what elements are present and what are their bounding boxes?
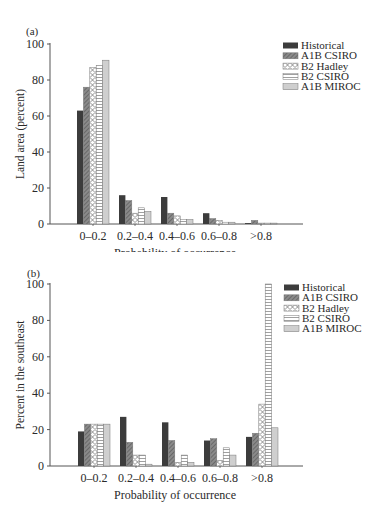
y-tick-label: 80 (32, 73, 44, 87)
bar (162, 422, 168, 466)
bar (104, 424, 110, 466)
y-tick-label: 20 (32, 423, 44, 437)
bar (251, 220, 257, 224)
y-tick-label: 0 (38, 217, 44, 231)
chart-panel-a: (a)020406080100Land area (percent)0–0.20… (0, 0, 372, 252)
bar (139, 455, 145, 466)
bar (216, 220, 222, 224)
bar (138, 208, 144, 224)
bar (119, 195, 125, 224)
x-tick-label: >0.8 (251, 471, 273, 485)
x-tick-label: >0.8 (250, 229, 272, 243)
bar (265, 284, 271, 466)
y-tick-label: 60 (32, 350, 44, 364)
bar (223, 448, 229, 466)
bar (90, 67, 96, 224)
y-tick-label: 60 (32, 109, 44, 123)
bar (246, 437, 252, 466)
bar (181, 455, 187, 466)
legend-swatch (283, 63, 298, 69)
bar (133, 455, 139, 466)
legend-swatch (284, 315, 299, 321)
bar (96, 66, 102, 224)
bar (252, 433, 258, 466)
bar (229, 222, 235, 224)
legend: HistoricalA1B CSIROB2 HadleyB2 CSIROA1B … (283, 39, 361, 92)
bars (77, 60, 277, 224)
bar (258, 223, 264, 224)
legend-label: A1B MIROC (301, 80, 361, 92)
x-tick-label: 0.6–0.8 (202, 471, 238, 485)
legend-swatch (283, 53, 298, 59)
bar (264, 223, 270, 224)
x-tick-label: 0–0.2 (81, 471, 108, 485)
y-axis-label: Percent in the southeast (14, 320, 26, 430)
bar (91, 424, 97, 466)
bar (222, 222, 228, 224)
bar (209, 219, 215, 224)
bar (180, 220, 186, 225)
legend: HistoricalA1B CSIROB2 HadleyB2 CSIROA1B … (284, 281, 362, 334)
bar (174, 216, 180, 224)
bar (132, 213, 138, 224)
bar (125, 201, 131, 224)
bar (272, 428, 278, 466)
bar (77, 111, 83, 224)
bar (78, 431, 84, 466)
legend-swatch (284, 326, 299, 332)
y-tick-label: 40 (32, 145, 44, 159)
legend-swatch (283, 43, 298, 49)
legend-swatch (284, 295, 299, 301)
chart-svg: (b)020406080100Percent in the southeast0… (0, 252, 372, 515)
x-tick-label: 0.6–0.8 (201, 229, 237, 243)
bar (83, 87, 89, 224)
bar (120, 417, 126, 466)
legend-swatch (284, 305, 299, 311)
x-tick-label: 0.4–0.6 (159, 229, 195, 243)
bar (145, 211, 151, 224)
bar (175, 462, 181, 466)
legend-label: A1B MIROC (302, 322, 362, 334)
x-tick-label: 0.2–0.4 (117, 229, 153, 243)
bar (245, 223, 251, 224)
bar (167, 213, 173, 224)
x-tick-label: 0.4–0.6 (160, 471, 196, 485)
chart-svg: (a)020406080100Land area (percent)0–0.20… (0, 0, 372, 252)
bar (126, 442, 132, 466)
bar (84, 424, 90, 466)
bar (204, 441, 210, 466)
bar (97, 424, 103, 466)
bar (259, 404, 265, 466)
bar (168, 441, 174, 466)
bar (203, 213, 209, 224)
legend-swatch (283, 73, 298, 79)
bars (78, 284, 278, 466)
bar (188, 462, 194, 466)
y-tick-label: 100 (26, 37, 44, 51)
y-tick-label: 80 (32, 313, 44, 327)
y-tick-label: 0 (38, 459, 44, 473)
legend-swatch (283, 84, 298, 90)
x-tick-label: 0–0.2 (80, 229, 107, 243)
y-tick-label: 40 (32, 386, 44, 400)
bar (230, 455, 236, 466)
bar (103, 60, 109, 224)
legend-swatch (284, 285, 299, 291)
y-tick-label: 100 (26, 277, 44, 291)
bar (210, 439, 216, 466)
bar (271, 223, 277, 224)
chart-panel-b: (b)020406080100Percent in the southeast0… (0, 252, 372, 515)
y-axis-label: Land area (percent) (14, 89, 27, 179)
bar (187, 220, 193, 225)
x-axis-label: Probability of occurrence (114, 488, 236, 502)
y-tick-label: 20 (32, 181, 44, 195)
bar (161, 197, 167, 224)
bar (217, 461, 223, 466)
bar (146, 464, 152, 466)
x-tick-label: 0.2–0.4 (118, 471, 154, 485)
